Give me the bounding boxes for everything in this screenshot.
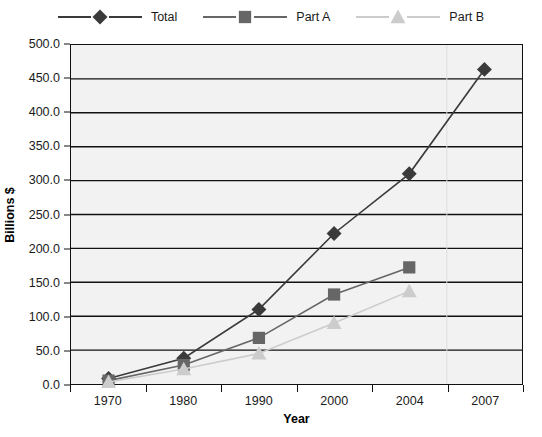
series-layer: [71, 45, 522, 384]
legend-label: Total: [151, 10, 177, 24]
series-line: [109, 69, 485, 378]
y-axis-tick-label: 300.0: [29, 173, 60, 187]
data-point-marker: [477, 62, 492, 77]
y-axis-tick-label: 150.0: [29, 276, 60, 290]
legend-line-left: [203, 16, 236, 18]
data-point-marker: [327, 316, 342, 330]
series-line: [109, 267, 410, 380]
x-axis-tick-label: 2000: [320, 394, 348, 408]
legend-entry-part-b[interactable]: Part B: [356, 8, 484, 26]
legend-line-right: [254, 16, 287, 18]
x-axis-tick-mark: [372, 385, 373, 392]
data-point-marker: [251, 346, 266, 360]
y-axis-tick-label: 450.0: [29, 71, 60, 85]
legend-line-right: [407, 16, 440, 18]
legend-line-right: [109, 16, 142, 18]
chart-legend: TotalPart APart B: [0, 0, 542, 34]
x-axis-title: Year: [70, 412, 523, 426]
legend-entry-total[interactable]: Total: [58, 8, 177, 26]
y-axis-tick-label: 350.0: [29, 139, 60, 153]
legend-label: Part A: [296, 10, 330, 24]
y-axis-tick-label: 200.0: [29, 242, 60, 256]
legend-marker-square-icon: [236, 8, 254, 26]
y-axis-tick-label: 500.0: [29, 37, 60, 51]
legend-marker-triangle-icon: [389, 8, 407, 26]
x-axis-tick-label: 1980: [169, 394, 197, 408]
y-axis-tick-label: 50.0: [36, 344, 60, 358]
x-axis-tick-label: 1990: [245, 394, 273, 408]
x-axis-tick-mark: [448, 385, 449, 392]
x-axis: 197019801990200020042007: [70, 385, 523, 411]
legend-entry-part-a[interactable]: Part A: [203, 8, 330, 26]
data-point-marker: [328, 288, 340, 300]
y-axis-tick-label: 250.0: [29, 208, 60, 222]
plot-area: [70, 44, 523, 385]
y-axis-tick-label: 100.0: [29, 310, 60, 324]
legend-line-left: [356, 16, 389, 18]
x-axis-tick-mark: [146, 385, 147, 392]
y-axis: 0.050.0100.0150.0200.0250.0300.0350.0400…: [0, 44, 70, 385]
x-axis-tick-mark: [523, 385, 524, 392]
y-axis-tick-label: 0.0: [43, 378, 60, 392]
legend-marker-diamond-icon: [91, 8, 109, 26]
data-point-marker: [402, 284, 417, 298]
data-point-marker: [403, 261, 415, 273]
x-axis-tick-label: 1970: [94, 394, 122, 408]
x-axis-tick-label: 2007: [471, 394, 499, 408]
x-axis-tick-mark: [297, 385, 298, 392]
y-axis-tick-label: 400.0: [29, 105, 60, 119]
x-axis-tick-mark: [221, 385, 222, 392]
x-axis-tick-label: 2004: [396, 394, 424, 408]
x-axis-tick-mark: [70, 385, 71, 392]
legend-label: Part B: [449, 10, 484, 24]
legend-line-left: [58, 16, 91, 18]
data-point-marker: [253, 332, 265, 344]
data-point-marker: [402, 166, 417, 181]
chart-container: TotalPart APart B Billions $ 0.050.0100.…: [0, 0, 542, 437]
